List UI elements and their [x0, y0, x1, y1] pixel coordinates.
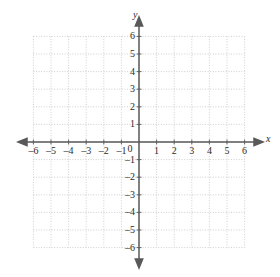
coordinate-plane: x y 0 –6–5–4–3–2–1123456654321–1–2–3–4–5… — [0, 0, 280, 277]
axis-layer — [0, 0, 280, 277]
y-axis-down-arrowhead — [135, 259, 142, 268]
x-axis-left-arrowhead — [18, 138, 27, 145]
x-axis-right-arrowhead — [254, 138, 263, 145]
y-axis-up-arrowhead — [135, 17, 142, 26]
